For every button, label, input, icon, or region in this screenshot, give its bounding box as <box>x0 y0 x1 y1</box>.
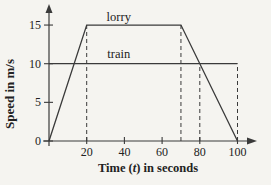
train-label: train <box>107 47 131 61</box>
x-tick-label-40: 40 <box>118 145 130 159</box>
x-tick-label-80: 80 <box>194 145 206 159</box>
y-axis-arrowhead-icon <box>46 4 53 13</box>
y-tick-label-5: 5 <box>35 95 41 109</box>
y-tick-label-0: 0 <box>35 134 41 148</box>
lorry-label: lorry <box>107 10 132 24</box>
y-tick-label-10: 10 <box>29 57 41 71</box>
speed-time-chart: lorrytrain05101520406080100Speed in m/sT… <box>0 0 271 185</box>
x-tick-label-100: 100 <box>229 145 247 159</box>
x-axis-title: Time (t) in seconds <box>98 161 198 175</box>
lorry-line <box>49 25 238 141</box>
scanned-figure-page: lorrytrain05101520406080100Speed in m/sT… <box>0 0 271 185</box>
y-axis-title: Speed in m/s <box>2 59 17 129</box>
y-tick-label-15: 15 <box>29 18 41 32</box>
x-tick-label-60: 60 <box>156 145 168 159</box>
x-axis-arrowhead-icon <box>247 138 257 145</box>
x-tick-label-20: 20 <box>81 145 93 159</box>
